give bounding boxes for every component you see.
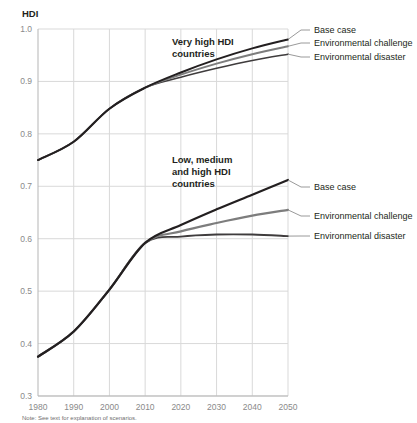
group-label: countries <box>172 178 215 189</box>
chart-canvas: HDI 0.30.40.50.60.70.80.91.0 19801990200… <box>0 0 417 423</box>
x-tick-label: 2010 <box>136 402 155 412</box>
legend-label: Environmental disaster <box>314 231 406 241</box>
group-label: countries <box>172 48 215 59</box>
x-tick-label: 2050 <box>279 402 298 412</box>
x-tick-label: 2040 <box>243 402 262 412</box>
legend-label: Environmental disaster <box>314 52 406 62</box>
legend-label: Environmental challenge <box>314 38 413 48</box>
y-tick-label: 0.3 <box>20 391 32 401</box>
hdi-scenario-chart: HDI 0.30.40.50.60.70.80.91.0 19801990200… <box>0 0 417 423</box>
legend-label: Environmental challenge <box>314 211 413 221</box>
y-tick-label: 0.8 <box>20 129 32 139</box>
y-tick-label: 0.6 <box>20 234 32 244</box>
legend-label: Base case <box>314 182 356 192</box>
legend-label: Base case <box>314 25 356 35</box>
x-tick-label: 1990 <box>64 402 83 412</box>
y-tick-label: 0.7 <box>20 181 32 191</box>
y-axis-title: HDI <box>22 8 38 19</box>
y-tick-label: 0.4 <box>20 339 32 349</box>
chart-note: Note: See text for explanation of scenar… <box>22 415 137 421</box>
x-tick-label: 2030 <box>207 402 226 412</box>
y-tick-label: 0.9 <box>20 76 32 86</box>
y-tick-label: 1.0 <box>20 24 32 34</box>
group-label: and high HDI <box>172 166 231 177</box>
x-tick-label: 2000 <box>100 402 119 412</box>
group-label: Low, medium <box>172 154 232 165</box>
x-tick-label: 1980 <box>29 402 48 412</box>
y-tick-label: 0.5 <box>20 286 32 296</box>
x-tick-label: 2020 <box>171 402 190 412</box>
group-label: Very high HDI <box>172 36 234 47</box>
